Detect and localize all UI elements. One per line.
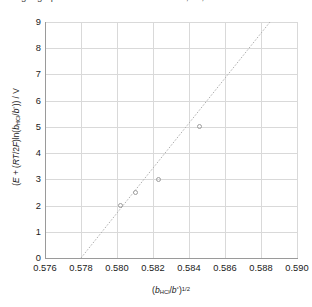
y-title-b: b [11, 125, 21, 130]
top-caption-text: Fitting a graph to estimate the standard… [0, 0, 312, 5]
gridline-vertical [297, 22, 298, 258]
y-tick-label: 5 [36, 122, 41, 132]
y-title-over2F: /2 [11, 147, 21, 154]
y-title-paren-open: ( [11, 183, 21, 186]
x-tick-label: 0.584 [177, 263, 200, 273]
y-title-RT: RT [11, 154, 21, 165]
chart-figure: Fitting a graph to estimate the standard… [0, 0, 312, 307]
trendline [45, 22, 297, 258]
x-title-sub-hcl: HCl [160, 289, 170, 295]
x-tick-label: 0.586 [213, 263, 236, 273]
y-title-plus: + ( [11, 165, 21, 177]
y-title-tail: )) / V [11, 88, 21, 106]
x-tick-label: 0.576 [33, 263, 56, 273]
y-tick-label: 3 [36, 174, 41, 184]
y-tick-label: 6 [36, 96, 41, 106]
y-title-F: F [11, 142, 21, 147]
y-tick-label: 8 [36, 43, 41, 53]
x-axis-title: (bHCl/b°)1/2 [45, 285, 297, 295]
y-tick-label: 7 [36, 69, 41, 79]
data-point [156, 177, 161, 182]
y-tick-label: 9 [36, 17, 41, 27]
plot-area: 0123456789 0.5760.5780.5800.5820.5840.58… [45, 22, 297, 258]
data-point [133, 190, 138, 195]
y-title-E: E [11, 177, 21, 183]
x-tick-label: 0.578 [69, 263, 92, 273]
y-title-degree: ° [12, 106, 18, 108]
y-tick-label: 1 [36, 227, 41, 237]
y-tick-label: 4 [36, 148, 41, 158]
x-tick-label: 0.590 [285, 263, 308, 273]
y-title-sub-hcl: HCl [15, 116, 21, 126]
x-axis-line [45, 258, 298, 259]
y-title-slash: / [11, 113, 21, 115]
y-title-ln-open: )ln( [11, 130, 21, 142]
y-tick-label: 0 [36, 253, 41, 263]
y-axis-title: (E + (RT/2F)ln(bHCl/b°)) / V [11, 22, 25, 252]
x-tick-label: 0.588 [249, 263, 272, 273]
x-tick-label: 0.582 [141, 263, 164, 273]
x-tick-label: 0.580 [105, 263, 128, 273]
y-tick-label: 2 [36, 201, 41, 211]
y-title-b2: b [11, 109, 21, 114]
x-title-exponent: 1/2 [182, 286, 190, 292]
